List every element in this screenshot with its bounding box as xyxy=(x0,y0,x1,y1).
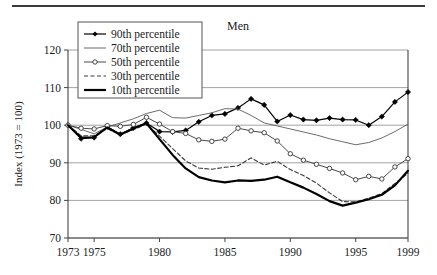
data-point-marker xyxy=(301,117,306,122)
line-chart-svg: 7080901001101201973197519801985199019951… xyxy=(0,0,437,275)
data-point-marker xyxy=(340,117,345,122)
data-point-marker xyxy=(288,112,293,117)
x-tick-label: 1975 xyxy=(83,246,106,258)
data-point-marker xyxy=(79,126,83,130)
data-point-marker xyxy=(327,115,332,120)
x-tick-label: 1985 xyxy=(213,246,236,258)
data-point-marker xyxy=(353,178,357,182)
legend-label: 30th percentile xyxy=(111,70,180,83)
legend-label: 70th percentile xyxy=(111,42,180,55)
data-point-marker xyxy=(222,111,227,116)
data-point-marker xyxy=(275,139,279,143)
data-point-marker xyxy=(157,122,161,126)
data-point-marker xyxy=(262,131,266,135)
data-point-marker xyxy=(249,129,253,133)
data-point-marker xyxy=(340,171,344,175)
x-tick-label: 1980 xyxy=(148,246,171,258)
data-point-marker xyxy=(183,131,187,135)
y-tick-label: 80 xyxy=(50,194,62,206)
y-tick-label: 110 xyxy=(44,82,61,94)
data-point-marker xyxy=(170,129,174,133)
chart-figure: 7080901001101201973197519801985199019951… xyxy=(0,0,437,275)
data-point-marker xyxy=(288,152,292,156)
data-point-marker xyxy=(131,122,135,126)
data-point-marker xyxy=(314,118,319,123)
data-point-marker xyxy=(92,127,96,131)
y-tick-label: 70 xyxy=(50,232,62,244)
data-point-marker xyxy=(301,158,305,162)
x-tick-label: 1973 xyxy=(57,246,80,258)
y-tick-label: 120 xyxy=(44,44,62,56)
series-line-90th xyxy=(68,92,408,139)
top-rule xyxy=(12,5,425,7)
chart-title: Men xyxy=(227,19,249,33)
y-tick-label: 100 xyxy=(44,119,62,131)
data-point-marker xyxy=(314,162,318,166)
data-point-marker xyxy=(197,138,201,142)
legend-label: 10th percentile xyxy=(111,84,180,97)
data-point-marker xyxy=(118,124,122,128)
data-point-marker xyxy=(367,174,371,178)
data-point-marker xyxy=(406,156,410,160)
data-point-marker xyxy=(236,126,240,130)
data-point-marker xyxy=(353,117,358,122)
data-point-marker xyxy=(393,165,397,169)
y-tick-label: 90 xyxy=(50,157,62,169)
data-point-marker xyxy=(223,137,227,141)
data-point-marker xyxy=(210,139,214,143)
legend-label: 50th percentile xyxy=(111,56,180,69)
x-tick-label: 1990 xyxy=(279,246,302,258)
data-point-marker xyxy=(380,177,384,181)
legend-swatch-marker xyxy=(93,60,97,64)
y-axis-label: Index (1973 = 100) xyxy=(12,101,25,187)
legend-label: 90th percentile xyxy=(111,28,180,41)
x-tick-label: 1995 xyxy=(344,246,367,258)
data-point-marker xyxy=(144,115,148,119)
x-tick-label: 1999 xyxy=(397,246,420,258)
data-point-marker xyxy=(327,166,331,170)
